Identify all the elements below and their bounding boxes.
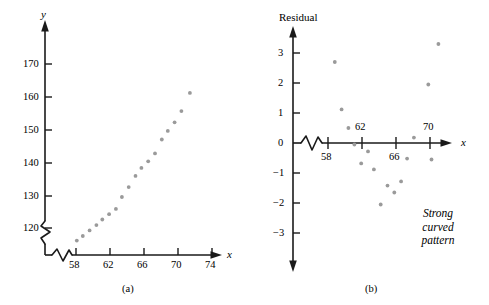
data-point [180, 109, 184, 113]
data-point [88, 229, 92, 233]
panel-a-x-tick-74: 74 [205, 260, 216, 271]
panel-a-y-tick-130: 130 [23, 191, 39, 202]
data-point [100, 218, 104, 222]
panel-a-y-tick-170: 170 [23, 59, 39, 70]
panel-a-y-axis-break [41, 221, 50, 244]
panel-b-y-tick-neg1: −1 [273, 168, 284, 179]
data-point [399, 180, 403, 184]
annotation-line-3: pattern [398, 234, 478, 248]
panel-b-x-axis-break [301, 136, 322, 150]
data-point [392, 191, 396, 195]
panel-b-x-axis-label: x [461, 137, 466, 148]
panel-a-y-axis-arrow [41, 20, 49, 32]
data-point [347, 126, 351, 130]
panel-a-data-points [75, 91, 192, 243]
data-point [81, 234, 85, 238]
panel-b-y-tick-2: 2 [278, 78, 283, 89]
data-point [127, 185, 131, 189]
panel-b-y-tick-3: 3 [278, 48, 283, 59]
data-point [120, 195, 124, 199]
panel-b-y-axis [289, 26, 297, 272]
data-point [140, 166, 144, 170]
panel-b-annotation: Strong curved pattern [398, 207, 478, 248]
data-point [437, 42, 441, 46]
panel-a-x-axis-label: x [227, 249, 232, 260]
panel-b-y-tick-neg2: −2 [273, 198, 284, 209]
panel-a-x-tick-66: 66 [137, 260, 148, 271]
data-point [173, 120, 177, 124]
data-point [353, 143, 357, 147]
panel-b-x-axis [293, 136, 452, 150]
figure-container: y x 170 160 150 140 130 120 58 62 66 70 … [0, 0, 489, 305]
data-point [134, 174, 138, 178]
panel-b-plot [245, 0, 489, 305]
data-point [75, 239, 79, 243]
data-point [107, 212, 111, 216]
data-point [160, 138, 164, 142]
data-point [372, 168, 376, 172]
panel-a-y-ticks [45, 64, 52, 228]
data-point [114, 207, 118, 211]
data-point [153, 152, 157, 156]
panel-a-x-tick-58: 58 [69, 260, 80, 271]
panel-a-y-tick-140: 140 [23, 158, 39, 169]
panel-b-x-tick-62: 62 [355, 122, 366, 133]
data-point [426, 83, 430, 87]
data-point [405, 157, 409, 161]
panel-a-x-tick-62: 62 [103, 260, 114, 271]
panel-a-y-axis [41, 20, 50, 255]
annotation-line-1: Strong [398, 207, 478, 221]
data-point [95, 223, 99, 227]
panel-a-y-axis-label: y [41, 9, 46, 20]
data-point [146, 159, 150, 163]
panel-a-x-ticks [76, 248, 212, 255]
data-point [340, 108, 344, 112]
panel-b-x-tick-58: 58 [321, 152, 332, 163]
data-point [412, 136, 416, 140]
panel-a-caption: (a) [122, 284, 134, 295]
data-point [430, 158, 434, 162]
data-point [366, 150, 370, 154]
panel-a-y-tick-120: 120 [23, 223, 39, 234]
panel-b-y-tick-0: 0 [278, 138, 283, 149]
data-point [386, 184, 390, 188]
data-point [166, 129, 170, 133]
panel-b-x-axis-arrow [441, 139, 453, 147]
data-point [188, 91, 192, 95]
panel-a-y-tick-160: 160 [23, 92, 39, 103]
panel-b-y-axis-label: Residual [279, 12, 318, 23]
annotation-line-2: curved [398, 221, 478, 235]
panel-b-y-tick-neg3: −3 [273, 228, 284, 239]
panel-b-y-tick-1: 1 [278, 108, 283, 119]
panel-b-x-tick-70: 70 [423, 122, 434, 133]
data-point [359, 162, 363, 166]
panel-b-caption: (b) [365, 284, 377, 295]
panel-a-y-tick-150: 150 [23, 125, 39, 136]
panel-b-y-axis-arrow-down [289, 261, 297, 273]
data-point [379, 203, 383, 207]
panel-a-x-tick-70: 70 [171, 260, 182, 271]
panel-b-y-axis-arrow-up [289, 26, 297, 38]
panel-b-x-tick-66: 66 [389, 152, 400, 163]
data-point [333, 60, 337, 64]
